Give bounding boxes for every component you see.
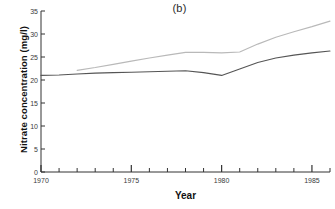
axis-lines	[41, 11, 330, 172]
nitrate-concentration-chart: (b) Nitrate concentration (mg/l) Year 05…	[0, 0, 335, 209]
plot-axes-and-series	[0, 0, 335, 209]
data-series	[41, 21, 330, 75]
series-line-lower-series	[41, 51, 330, 75]
axis-tick-marks	[41, 11, 330, 172]
series-line-upper-series	[77, 21, 330, 70]
